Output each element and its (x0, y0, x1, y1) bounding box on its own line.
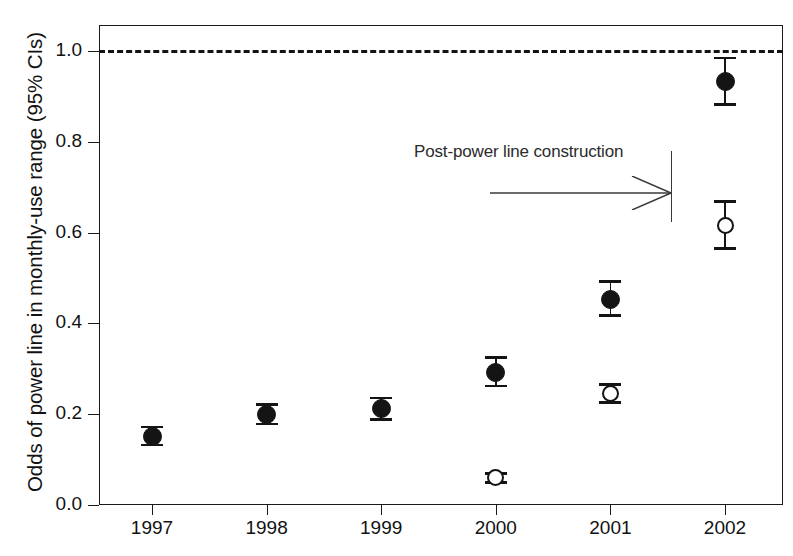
error-bar-cap-lower (714, 247, 736, 250)
y-axis-tick-label: 0.4 (36, 311, 82, 333)
error-bar-cap-upper (599, 280, 621, 283)
error-bar-cap-upper (714, 200, 736, 203)
y-axis-tick (88, 323, 99, 324)
filled-circle-marker (257, 405, 276, 424)
y-axis-tick-label: 0.2 (36, 402, 82, 424)
x-axis-tick (496, 505, 497, 515)
error-bar-cap-upper (485, 356, 507, 359)
x-axis-tick-label: 1998 (232, 517, 302, 539)
error-bar-cap-lower (714, 103, 736, 106)
y-axis-tick-label: 0.8 (36, 130, 82, 152)
x-axis-tick-label: 2002 (690, 517, 760, 539)
x-axis-tick-label: 1997 (117, 517, 187, 539)
y-axis-tick (88, 233, 99, 234)
x-axis-tick-label: 1999 (346, 517, 416, 539)
plot-area (99, 25, 783, 505)
x-axis-tick (381, 505, 382, 515)
x-axis-tick (152, 505, 153, 515)
y-axis-tick (88, 505, 99, 506)
y-axis-tick-label: 0.6 (36, 221, 82, 243)
y-axis-tick (88, 51, 99, 52)
x-axis-tick (267, 505, 268, 515)
open-circle-marker (717, 217, 734, 234)
y-axis-tick (88, 414, 99, 415)
y-axis-tick-label: 1.0 (36, 39, 82, 61)
y-axis-tick-label: 0.0 (36, 493, 82, 515)
y-axis-tick (88, 142, 99, 143)
filled-circle-marker (372, 399, 391, 418)
x-axis-tick-label: 2001 (575, 517, 645, 539)
chart-figure: Odds of power line in monthly-use range … (0, 0, 793, 556)
error-bar-cap-upper (714, 57, 736, 60)
annotation-label: Post-power line construction (414, 142, 623, 162)
filled-circle-marker (716, 72, 735, 91)
filled-circle-marker (143, 427, 162, 446)
reference-line-odds-1 (99, 50, 783, 53)
x-axis-tick-label: 2000 (461, 517, 531, 539)
error-bar-cap-lower (599, 314, 621, 317)
x-axis-tick (725, 505, 726, 515)
annotation-arrow-icon (490, 176, 674, 210)
y-axis-title: Odds of power line in monthly-use range … (23, 2, 53, 522)
error-bar-cap-lower (485, 385, 507, 388)
error-bar-cap-lower (370, 418, 392, 421)
x-axis-tick (610, 505, 611, 515)
